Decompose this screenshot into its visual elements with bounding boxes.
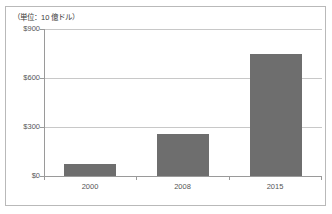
bar-2015 — [250, 54, 302, 177]
y-tick-label-600: $600 — [6, 74, 40, 82]
x-axis-line — [44, 176, 322, 177]
bars-layer — [44, 29, 322, 176]
x-tick-mark-2 — [229, 176, 230, 180]
y-axis-labels: $900 $600 $300 $0 — [4, 0, 40, 214]
x-category-label-2000: 2000 — [44, 182, 136, 191]
x-tick-mark-1 — [136, 176, 137, 180]
x-category-label-2015: 2015 — [229, 182, 321, 191]
y-tick-label-900: $900 — [6, 25, 40, 33]
x-tick-mark-0 — [44, 176, 45, 180]
y-tick-label-0: $0 — [6, 172, 40, 180]
chart-figure: （単位：10 億ドル） $900 $600 $300 $0 2000 2008 … — [0, 0, 332, 214]
x-tick-mark-3 — [321, 176, 322, 180]
x-category-label-2008: 2008 — [136, 182, 229, 191]
bar-2000 — [64, 164, 116, 176]
y-tick-label-300: $300 — [6, 123, 40, 131]
bar-2008 — [157, 134, 209, 176]
